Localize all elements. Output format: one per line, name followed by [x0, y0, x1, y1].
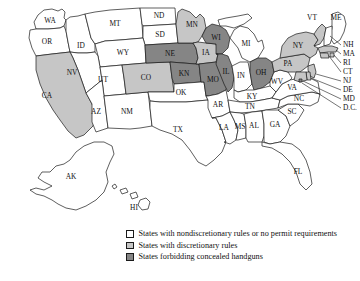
state-label-IA: IA	[202, 48, 210, 57]
state-label-MD: MD	[343, 94, 356, 103]
state-label-TN: TN	[245, 102, 256, 111]
state-label-LA: LA	[219, 123, 230, 132]
state-label-TX: TX	[173, 125, 184, 134]
state-label-CA: CA	[42, 91, 53, 100]
state-label-KN: KN	[179, 69, 190, 78]
state-label-AR: AR	[213, 100, 223, 109]
state-label-ME: ME	[330, 13, 342, 22]
leader-line-MA	[336, 50, 341, 54]
state-label-AZ: AZ	[91, 107, 101, 116]
state-label-DE: DE	[343, 85, 353, 94]
state-label-CO: CO	[141, 73, 152, 82]
legend-label-forbidding: States forbidding concealed handguns	[139, 251, 263, 263]
state-label-NH: NH	[343, 40, 354, 49]
legend-item-forbidding[interactable]: States forbidding concealed handguns	[126, 251, 360, 263]
state-label-NJ: NJ	[343, 76, 351, 85]
state-label-AK: AK	[66, 172, 77, 181]
state-label-MO: MO	[207, 75, 220, 84]
state-label-IN: IN	[237, 71, 245, 80]
leader-line-RI	[334, 55, 341, 63]
map-legend: States with nondiscretionary rules or no…	[0, 228, 360, 281]
legend-item-nondiscretionary[interactable]: States with nondiscretionary rules or no…	[126, 228, 360, 240]
state-label-OH: OH	[256, 68, 267, 77]
state-label-MA: MA	[343, 49, 356, 58]
state-label-DC: D.C.	[343, 103, 357, 112]
state-label-NM: NM	[121, 107, 133, 116]
state-label-MS: MS	[235, 122, 246, 131]
state-label-CT: CT	[343, 67, 353, 76]
legend-swatch-discretionary	[126, 242, 134, 250]
legend-item-discretionary[interactable]: States with discretionary rules	[126, 240, 360, 252]
state-label-MT: MT	[109, 19, 121, 28]
state-label-VA: VA	[287, 83, 297, 92]
state-RI[interactable]	[330, 53, 334, 57]
state-MA[interactable]	[318, 46, 338, 53]
us-states-map: WA OR ID MT ND SD WY NV UT CA AZ NM CO N…	[0, 0, 360, 225]
state-label-RI: RI	[343, 58, 351, 67]
legend-label-discretionary: States with discretionary rules	[139, 240, 238, 252]
state-label-HI: HI	[130, 203, 138, 212]
state-DC[interactable]	[299, 79, 302, 82]
state-label-WA: WA	[44, 16, 56, 25]
state-label-ID: ID	[77, 41, 85, 50]
state-label-MN: MN	[186, 20, 199, 29]
state-label-SC: SC	[287, 107, 296, 116]
state-label-ND: ND	[154, 11, 165, 20]
state-label-FL: FL	[294, 167, 303, 176]
state-label-NV: NV	[67, 68, 78, 77]
legend-label-nondiscretionary: States with nondiscretionary rules or no…	[139, 228, 338, 240]
state-label-VT: VT	[307, 13, 317, 22]
leader-line-CT	[329, 56, 341, 72]
state-label-WY: WY	[117, 48, 130, 57]
state-label-OK: OK	[176, 88, 187, 97]
state-label-AL: AL	[249, 121, 259, 130]
state-label-NY: NY	[293, 41, 304, 50]
state-label-NE: NE	[165, 49, 175, 58]
state-label-WV: WV	[271, 77, 284, 86]
state-label-MI: MI	[241, 39, 251, 48]
state-label-SD: SD	[155, 30, 165, 39]
concealed-handgun-laws-map: WA OR ID MT ND SD WY NV UT CA AZ NM CO N…	[0, 0, 360, 281]
state-CT[interactable]	[320, 53, 329, 58]
state-label-OR: OR	[42, 37, 52, 46]
state-label-PA: PA	[284, 59, 293, 68]
state-label-UT: UT	[98, 75, 108, 84]
state-label-WI: WI	[211, 33, 221, 42]
state-label-IL: IL	[223, 67, 230, 76]
state-label-GA: GA	[270, 120, 281, 129]
legend-swatch-nondiscretionary	[126, 230, 134, 238]
legend-swatch-forbidding	[126, 253, 134, 261]
state-FL[interactable]	[262, 142, 312, 190]
leader-line-NJ	[316, 74, 341, 81]
state-label-KY: KY	[247, 92, 258, 101]
state-label-NC: NC	[294, 94, 304, 103]
